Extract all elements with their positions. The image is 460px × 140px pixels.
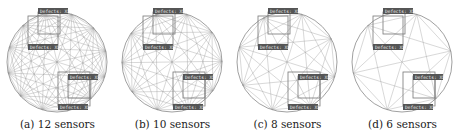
svg-text:Defects: XX: Defects: XX	[375, 45, 405, 50]
figure: Defects: XXDefects: XXDefects: XXDefects…	[0, 0, 460, 140]
svg-text:Defects: XX: Defects: XX	[270, 9, 300, 14]
sensor-network-plot: Defects: XXDefects: XXDefects: XXDefects…	[345, 0, 460, 118]
caption: (d) 6 sensors	[345, 118, 460, 130]
sensor-network-plot: Defects: XXDefects: XXDefects: XXDefects…	[230, 0, 345, 118]
sensor-network-plot: Defects: XXDefects: XXDefects: XXDefects…	[115, 0, 230, 118]
panel-c: Defects: XXDefects: XXDefects: XXDefects…	[230, 0, 345, 140]
svg-text:Defects: XX: Defects: XX	[70, 75, 100, 80]
svg-text:Defects: XX: Defects: XX	[415, 75, 445, 80]
caption: (b) 10 sensors	[115, 118, 230, 130]
svg-text:Defects: XX: Defects: XX	[260, 45, 290, 50]
svg-text:Defects: XX: Defects: XX	[145, 45, 175, 50]
svg-text:Defects: XX: Defects: XX	[385, 9, 415, 14]
caption: (c) 8 sensors	[230, 118, 345, 130]
sensor-network-plot: Defects: XXDefects: XXDefects: XXDefects…	[0, 0, 115, 118]
svg-text:Defects: XX: Defects: XX	[30, 45, 60, 50]
panel-b: Defects: XXDefects: XXDefects: XXDefects…	[115, 0, 230, 140]
svg-text:Defects: XX: Defects: XX	[155, 9, 185, 14]
svg-text:Defects: XX: Defects: XX	[175, 105, 205, 110]
caption: (a) 12 sensors	[0, 118, 115, 130]
svg-text:Defects: XX: Defects: XX	[290, 105, 320, 110]
svg-text:Defects: XX: Defects: XX	[405, 105, 435, 110]
panel-d: Defects: XXDefects: XXDefects: XXDefects…	[345, 0, 460, 140]
svg-text:Defects: XX: Defects: XX	[185, 75, 215, 80]
panel-a: Defects: XXDefects: XXDefects: XXDefects…	[0, 0, 115, 140]
svg-text:Defects: XX: Defects: XX	[40, 9, 70, 14]
svg-text:Defects: XX: Defects: XX	[60, 105, 90, 110]
svg-text:Defects: XX: Defects: XX	[300, 75, 330, 80]
